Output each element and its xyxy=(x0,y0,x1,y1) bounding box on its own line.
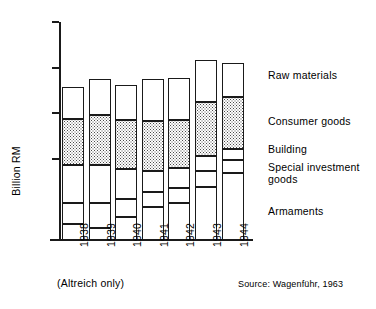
plot-area xyxy=(0,0,376,309)
bar-segment-special-investment-goods-1944[interactable] xyxy=(222,160,244,174)
bar-1940[interactable] xyxy=(115,0,137,240)
bar-segment-special-investment-goods-1942[interactable] xyxy=(168,188,190,203)
bar-1939[interactable] xyxy=(89,0,111,240)
bar-1942[interactable] xyxy=(168,0,190,240)
bar-segment-special-investment-goods-1938[interactable] xyxy=(62,203,84,223)
x-tick-label-1942: 1942 xyxy=(184,223,196,247)
bar-segment-raw-materials-1940[interactable] xyxy=(115,85,137,120)
bar-segment-consumer-goods-1944[interactable] xyxy=(222,97,244,149)
x-tick-label-1944: 1944 xyxy=(238,223,250,247)
source-note: Source: Wagenführ, 1963 xyxy=(238,279,343,289)
legend-label-consumer-goods: Consumer goods xyxy=(268,115,351,128)
bar-segment-raw-materials-1938[interactable] xyxy=(62,87,84,118)
bar-segment-building-1944[interactable] xyxy=(222,149,244,160)
legend-label-armaments: Armaments xyxy=(268,205,323,218)
chart-figure: 80 60 40 20 0 Billion RM 193819391940194… xyxy=(0,0,376,309)
bar-1943[interactable] xyxy=(195,0,217,240)
bar-segment-special-investment-goods-1940[interactable] xyxy=(115,199,137,217)
x-tick-label-1939: 1939 xyxy=(105,223,117,247)
bar-segment-raw-materials-1943[interactable] xyxy=(195,60,217,102)
legend-label-special-investment-goods: goods xyxy=(268,173,298,186)
bar-segment-building-1943[interactable] xyxy=(195,156,217,171)
legend-label-building: Building xyxy=(268,143,307,156)
x-tick-label-1940: 1940 xyxy=(131,223,143,247)
bar-segment-consumer-goods-1941[interactable] xyxy=(142,121,164,170)
bar-segment-raw-materials-1942[interactable] xyxy=(168,78,190,120)
bar-segment-raw-materials-1941[interactable] xyxy=(142,79,164,121)
altreich-note: (Altreich only) xyxy=(57,277,124,289)
legend-label-raw-materials: Raw materials xyxy=(268,69,337,82)
bar-segment-building-1939[interactable] xyxy=(89,165,111,203)
bar-segment-special-investment-goods-1941[interactable] xyxy=(142,192,164,207)
bar-segment-building-1940[interactable] xyxy=(115,169,137,199)
bar-segment-building-1941[interactable] xyxy=(142,171,164,193)
bar-segment-consumer-goods-1942[interactable] xyxy=(168,120,190,168)
bar-segment-special-investment-goods-1943[interactable] xyxy=(195,171,217,187)
bar-1941[interactable] xyxy=(142,0,164,240)
bar-segment-consumer-goods-1943[interactable] xyxy=(195,102,217,155)
bar-segment-consumer-goods-1938[interactable] xyxy=(62,119,84,165)
bar-segment-consumer-goods-1939[interactable] xyxy=(89,115,111,165)
x-tick-label-1943: 1943 xyxy=(211,223,223,247)
bar-segment-consumer-goods-1940[interactable] xyxy=(115,120,137,169)
bar-segment-building-1942[interactable] xyxy=(168,168,190,188)
bar-segment-raw-materials-1944[interactable] xyxy=(222,63,244,97)
bar-1944[interactable] xyxy=(222,0,244,240)
bar-segment-building-1938[interactable] xyxy=(62,165,84,203)
legend-label-special-investment: Special investment xyxy=(268,161,360,174)
x-tick-label-1941: 1941 xyxy=(158,223,170,247)
bar-segment-raw-materials-1939[interactable] xyxy=(89,79,111,114)
x-tick-label-1938: 1938 xyxy=(78,223,90,247)
bar-1938[interactable] xyxy=(62,0,84,240)
